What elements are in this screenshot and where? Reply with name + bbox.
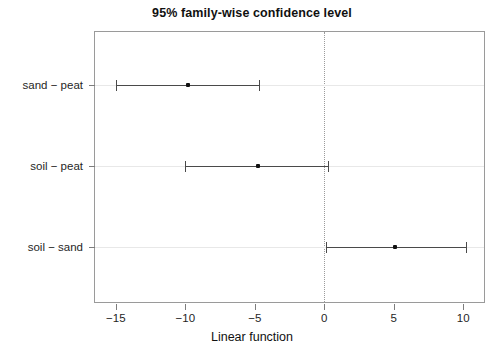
zero-reference-line (324, 32, 325, 302)
interval-upper-cap (259, 80, 260, 91)
x-axis-tick (394, 304, 395, 310)
interval-upper-cap (466, 242, 467, 253)
y-axis-label-1: sand − peat (23, 79, 83, 91)
estimate-point (186, 83, 190, 87)
x-axis-title: Linear function (0, 330, 504, 344)
interval-lower-cap (326, 242, 327, 253)
confidence-interval-plot: 95% family-wise confidence level sand − … (0, 0, 504, 358)
interval-lower-cap (185, 161, 186, 172)
plot-panel: sand − peatsoil − peatsoil − sand−15−10−… (94, 31, 485, 303)
y-axis-tick (89, 166, 95, 167)
x-axis-tick-label: −15 (106, 312, 126, 324)
plot-coordinate-layer: sand − peatsoil − peatsoil − sand−15−10−… (95, 32, 484, 302)
page-title: 95% family-wise confidence level (0, 6, 504, 20)
y-axis-tick (89, 85, 95, 86)
x-axis-tick (324, 304, 325, 310)
x-axis-tick (463, 304, 464, 310)
x-axis-tick-label: −10 (176, 312, 196, 324)
y-axis-tick (89, 247, 95, 248)
x-axis-tick-label: 0 (321, 312, 327, 324)
x-axis-tick (255, 304, 256, 310)
y-axis-label-3: soil − sand (28, 241, 83, 253)
interval-lower-cap (116, 80, 117, 91)
x-axis-tick-label: 10 (457, 312, 470, 324)
x-axis-tick-label: −5 (248, 312, 261, 324)
x-axis-tick (116, 304, 117, 310)
estimate-point (256, 164, 260, 168)
estimate-point (393, 245, 397, 249)
interval-upper-cap (328, 161, 329, 172)
x-axis-tick-label: 5 (390, 312, 396, 324)
y-axis-label-2: soil − peat (30, 160, 83, 172)
x-axis-tick (185, 304, 186, 310)
